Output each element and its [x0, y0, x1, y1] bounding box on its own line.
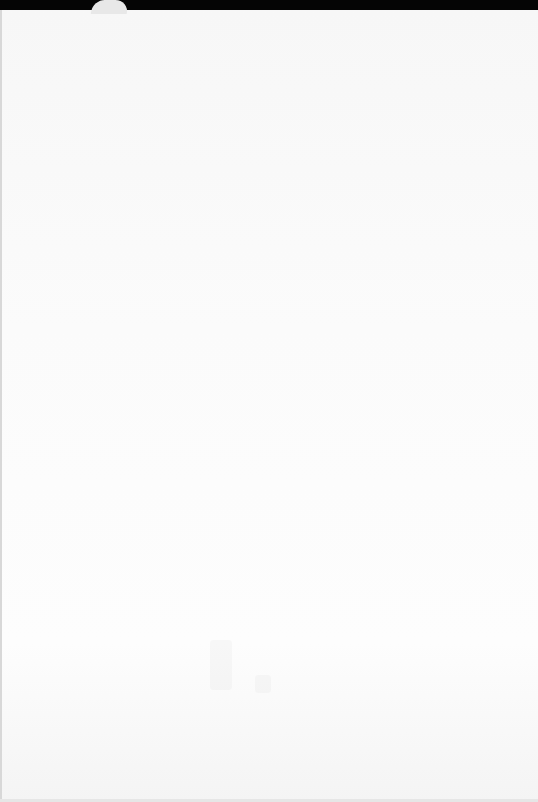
background-band: [0, 0, 538, 10]
faint-mark: [255, 675, 271, 693]
paper-tab: [91, 0, 129, 14]
page-left-edge: [0, 10, 2, 802]
faint-mark: [210, 640, 232, 690]
